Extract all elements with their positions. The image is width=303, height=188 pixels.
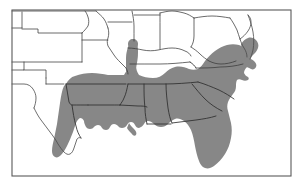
map-canvas (0, 0, 303, 188)
distribution-map-figure (0, 0, 303, 188)
range-area-spur-knob (128, 39, 138, 49)
